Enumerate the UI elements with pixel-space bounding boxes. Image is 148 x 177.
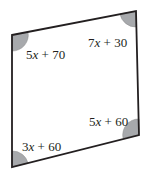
angle-label-bottom-left: 3x + 60 — [22, 139, 61, 154]
parallelogram-diagram: 5x + 70 7x + 30 5x + 60 3x + 60 — [0, 0, 148, 177]
angle-label-bottom-right: 5x + 60 — [89, 114, 128, 129]
angle-label-top-left: 5x + 70 — [26, 47, 65, 62]
angle-label-top-right: 7x + 30 — [88, 35, 127, 50]
